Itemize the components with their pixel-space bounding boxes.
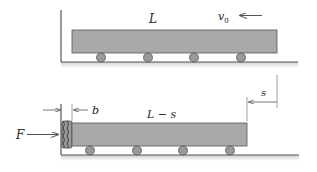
wheel [190,53,199,62]
wheel [237,53,246,62]
floor-shadow [61,62,298,68]
wheel [144,53,153,62]
wheels [86,146,235,155]
displacement-label: s [261,87,266,98]
wheel [86,146,95,155]
length-label: L [148,12,157,26]
force-label: F [15,128,25,142]
length-label: L − s [146,108,177,121]
wheel [179,146,188,155]
floor-shadow [61,155,299,161]
wheels [97,53,246,62]
car-block [72,123,247,146]
velocity-label: v0 [218,10,229,25]
wheel [226,146,235,155]
bottom-panel: F b L − s s [15,75,299,161]
wheel [133,146,142,155]
bumper-label: b [92,104,99,117]
car-block [72,30,277,53]
wheel [97,53,106,62]
top-panel: L v0 [61,10,298,68]
car-bumper-diagram: L v0 F b L − s [0,0,317,172]
crushed-bumper [62,121,72,148]
